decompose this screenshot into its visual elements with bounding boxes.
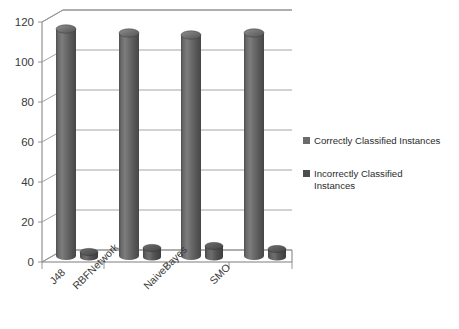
bar-correctly-classified-smo <box>244 29 264 260</box>
legend-label-correctly-classified: Correctly Classified Instances <box>314 135 441 146</box>
legend-label-incorrectly-classified-line2: Instances <box>314 180 355 191</box>
bar-incorrectly-classified-smo <box>268 245 286 260</box>
bar-correctly-classified-naivebayes <box>181 31 201 260</box>
y-tick-label: 40 <box>21 176 34 188</box>
cylinder-bar-chart: 120 100 80 60 40 20 0 <box>0 0 459 329</box>
y-tick-label: 0 <box>28 256 34 268</box>
legend-label-incorrectly-classified-line1: Incorrectly Classified <box>314 168 403 179</box>
y-tick-label: 20 <box>21 216 34 228</box>
y-tick-label: 60 <box>21 136 34 148</box>
legend-entry-correctly-classified[interactable]: Correctly Classified Instances <box>303 135 441 146</box>
legend-marker-icon <box>303 170 310 177</box>
bar-correctly-classified-j48 <box>56 25 76 260</box>
legend-marker-icon <box>303 137 310 144</box>
y-tick-label: 80 <box>21 96 34 108</box>
bar-correctly-classified-rbfnetwork <box>119 29 139 260</box>
y-tick-label: 100 <box>15 56 34 68</box>
y-tick-label: 120 <box>15 16 34 28</box>
bar-incorrectly-classified-rbfnetwork <box>143 244 161 260</box>
chart-container: 120 100 80 60 40 20 0 <box>0 0 459 329</box>
bar-incorrectly-classified-naivebayes <box>205 242 223 260</box>
